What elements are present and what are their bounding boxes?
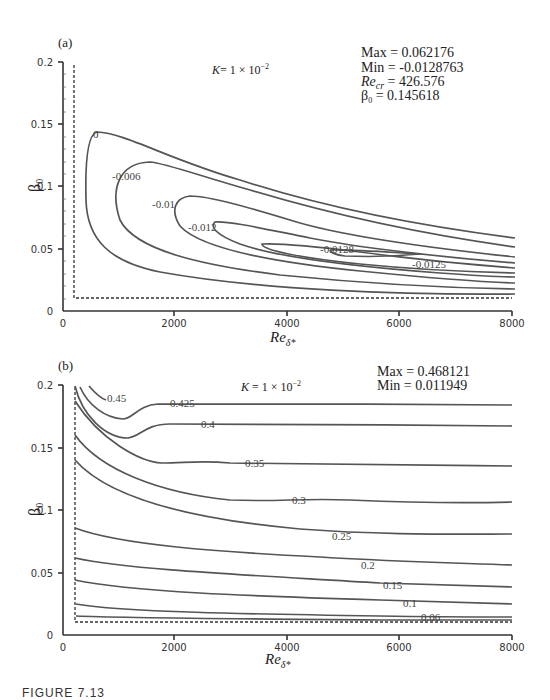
svg-text:0.425: 0.425 — [170, 397, 195, 409]
panel-a-info: Max = 0.062176 Min = -0.0128763 Recr = 4… — [360, 45, 463, 105]
panel-b-label: (b) — [58, 358, 73, 373]
svg-text:0.15: 0.15 — [31, 443, 53, 454]
svg-text:-0.0128: -0.0128 — [320, 243, 354, 255]
panel-a-label: (a) — [58, 35, 72, 50]
svg-text:0.1: 0.1 — [403, 597, 417, 609]
panel-b-k-label: K = 1 × 10−2 — [240, 379, 301, 394]
panel-b: (b) K = 1 × 10−2 Max = 0.468121 Min = 0.… — [26, 358, 525, 670]
svg-text:-0.006: -0.006 — [112, 170, 141, 182]
svg-text:Max = 0.468121: Max = 0.468121 — [377, 364, 470, 379]
svg-text:8000: 8000 — [499, 642, 524, 653]
figure-caption: FIGURE 7.13 — [22, 686, 105, 700]
panel-b-x-label: Reδ* — [264, 651, 290, 670]
svg-text:0: 0 — [93, 128, 99, 140]
svg-text:-0.012: -0.012 — [188, 221, 216, 233]
svg-text:-0.0125: -0.0125 — [412, 258, 446, 270]
svg-text:0.15: 0.15 — [383, 579, 403, 591]
panel-a: (a) K= 1 × 10−2 Max = 0.062176 Min = -0.… — [26, 35, 525, 348]
svg-text:6000: 6000 — [386, 642, 411, 653]
svg-text:0: 0 — [47, 630, 53, 641]
panel-a-y-label: β0 — [26, 179, 45, 192]
svg-text:Min = 0.011949: Min = 0.011949 — [377, 378, 467, 393]
svg-text:2000: 2000 — [161, 318, 186, 329]
svg-text:0.05: 0.05 — [31, 568, 53, 579]
svg-text:4000: 4000 — [274, 318, 299, 329]
svg-text:0.35: 0.35 — [245, 457, 265, 469]
panel-b-info: Max = 0.468121 Min = 0.011949 — [377, 364, 470, 393]
svg-text:Min = -0.0128763: Min = -0.0128763 — [361, 60, 463, 75]
svg-text:Max = 0.062176: Max = 0.062176 — [361, 45, 454, 60]
panel-a-x-label: Reδ* — [269, 329, 295, 348]
svg-text:6000: 6000 — [386, 318, 411, 329]
panel-b-contour-labels: 0.45 0.425 0.4 0.35 0.3 0.25 0.2 0.15 0.… — [107, 392, 441, 623]
svg-text:0.15: 0.15 — [31, 119, 53, 130]
svg-text:0.2: 0.2 — [361, 559, 375, 571]
svg-text:β0 = 0.145618: β0 = 0.145618 — [361, 88, 440, 105]
svg-text:0.2: 0.2 — [37, 380, 53, 391]
svg-text:2000: 2000 — [161, 642, 186, 653]
svg-text:0.06: 0.06 — [421, 611, 441, 623]
panel-b-y-label: β0 — [26, 503, 45, 516]
svg-text:0: 0 — [60, 642, 66, 653]
svg-text:8000: 8000 — [499, 318, 524, 329]
svg-text:0.25: 0.25 — [332, 530, 352, 542]
panel-a-contours — [86, 132, 515, 294]
svg-text:-0.01: -0.01 — [152, 198, 175, 210]
svg-text:0.2: 0.2 — [37, 57, 53, 68]
panel-b-x-ticks: 0 2000 4000 6000 8000 — [60, 642, 525, 653]
panel-a-k-label: K= 1 × 10−2 — [211, 62, 269, 77]
svg-text:0.4: 0.4 — [201, 418, 215, 430]
svg-text:0: 0 — [60, 318, 66, 329]
svg-text:0.05: 0.05 — [31, 244, 53, 255]
svg-text:0.45: 0.45 — [107, 392, 127, 404]
svg-text:0: 0 — [47, 306, 53, 317]
panel-a-x-ticks: 0 2000 4000 6000 8000 — [60, 318, 525, 329]
svg-text:0.3: 0.3 — [292, 494, 306, 506]
